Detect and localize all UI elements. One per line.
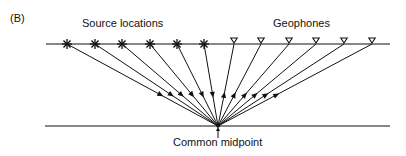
upgoing-ray [218,44,344,126]
source-locations-label: Source locations [82,17,163,29]
geophone-triangle-icon [369,38,375,43]
geophone-triangle-icon [258,38,264,43]
geophones-label: Geophones [273,17,330,29]
downgoing-ray [122,44,218,126]
upgoing-ray [218,44,316,126]
panel-label: (B) [10,12,25,24]
downgoing-ray [150,44,218,126]
downgoing-ray [67,44,218,126]
geophone-triangle-icon [286,38,292,43]
downgoing-ray [204,44,218,126]
downgoing-ray [177,44,218,126]
cmp-diagram: (B) Source locations Geophones Common mi… [0,0,406,156]
geophone-triangle-icon [313,38,319,43]
downgoing-ray [95,44,218,126]
ray-arrow-icon [221,92,226,98]
ray-arrow-icon [262,93,268,98]
ray-diagram [0,0,406,156]
upgoing-ray [218,44,289,126]
ray-arrow-icon [167,91,173,96]
upgoing-ray [218,44,372,126]
upgoing-ray [218,44,234,126]
midpoint-arrow-icon [216,127,220,131]
geophone-triangle-icon [341,38,347,43]
upgoing-ray [218,44,261,126]
ray-arrow-icon [210,91,215,97]
common-midpoint-label: Common midpoint [173,136,262,148]
geophone-triangle-icon [231,38,237,43]
